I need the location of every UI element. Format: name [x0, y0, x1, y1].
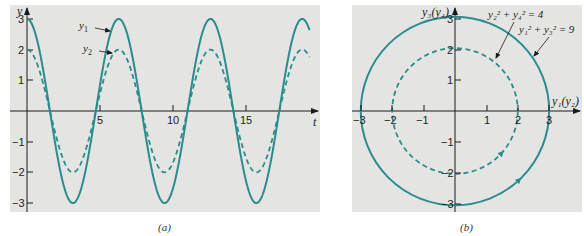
y-axis-label: y	[16, 4, 23, 18]
figure: 3 2 1 −1 −2 −3 5 10 15 y t y1 y2	[0, 0, 584, 236]
xtick-neg2: −2	[384, 114, 397, 126]
caption-b: (b)	[460, 221, 473, 234]
ttick-15: 15	[240, 114, 252, 126]
y3tick-2: 2	[447, 44, 453, 56]
y3tick-1: 1	[447, 74, 453, 86]
ytick-neg3: −3	[12, 197, 25, 209]
y3tick-neg3: −3	[441, 198, 454, 210]
ttick-5: 5	[97, 114, 103, 126]
svg-text:y₁² + y₃² = 9: y₁² + y₃² = 9	[518, 23, 575, 35]
y3tick-neg1: −1	[441, 136, 454, 148]
xtick-1: 1	[484, 114, 490, 126]
panel-a-background	[10, 5, 320, 212]
panel-b-background	[352, 5, 582, 212]
xtick-2: 2	[515, 114, 521, 126]
svg-text:y₂² + y₄² = 4: y₂² + y₄² = 4	[487, 8, 544, 20]
ytick-neg2: −2	[12, 166, 25, 178]
ttick-10: 10	[167, 114, 179, 126]
xtick-3: 3	[546, 114, 552, 126]
caption-a: (a)	[158, 221, 171, 234]
y1-axis-label: y₁(y₂)	[551, 94, 579, 108]
xtick-neg1: −1	[416, 114, 429, 126]
panel-b-phase-plot: −3 −2 −1 1 2 3 3 2 1 −1 −2 −3 y₃(y₄) y₁(…	[352, 5, 582, 234]
y3tick-neg2: −2	[441, 167, 454, 179]
ytick-2: 2	[18, 44, 24, 56]
ytick-1: 1	[18, 74, 24, 86]
ytick-neg1: −1	[12, 136, 25, 148]
xtick-neg3: −3	[353, 114, 366, 126]
y3-axis-label: y₃(y₄)	[421, 5, 449, 19]
panel-a-time-plot: 3 2 1 −1 −2 −3 5 10 15 y t y1 y2	[10, 4, 320, 234]
